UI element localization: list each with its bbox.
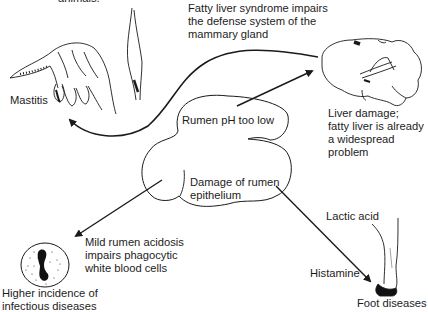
diagram-canvas: animals. Mastitis Fatty liver syndrome i…	[0, 0, 428, 312]
liver-icon	[322, 39, 421, 106]
histamine-label: Histamine	[310, 267, 360, 280]
infection-label: Higher incidence of infectious diseases	[2, 287, 98, 312]
clipped-top-text: animals.	[58, 0, 100, 5]
fatty-liver-note: Fatty liver syndrome impairs the defense…	[188, 2, 328, 41]
cow-leg-hoof-icon	[372, 218, 398, 296]
acidosis-note: Mild rumen acidosis impairs phagocytic w…	[85, 236, 184, 275]
mastitis-label: Mastitis	[10, 94, 48, 107]
cow-tail-icon	[127, 8, 142, 100]
rumen-ph-label: Rumen pH too low	[182, 114, 274, 127]
epithelium-label: Damage of rumen epithelium	[190, 176, 280, 202]
white-blood-cell-icon	[21, 243, 69, 287]
arrow-to-infection	[76, 180, 162, 236]
foot-diseases-label: Foot diseases	[357, 297, 427, 310]
arrow-ph-to-liver	[237, 71, 312, 106]
liver-damage-label: Liver damage; fatty liver is already a w…	[328, 107, 428, 159]
lactic-acid-label: Lactic acid	[326, 210, 379, 223]
